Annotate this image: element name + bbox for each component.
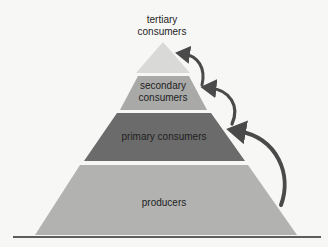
label-producers: producers [142,197,186,209]
pyramid-diagram: tertiary consumers secondary consumers p… [0,0,328,247]
label-line: tertiary [138,14,187,26]
tier-tertiary [136,42,190,73]
label-tertiary-consumers: tertiary consumers [138,14,187,37]
pyramid-graphic [0,0,328,247]
label-line: secondary [139,80,188,92]
label-line: primary consumers [121,131,206,143]
label-primary-consumers: primary consumers [121,131,206,143]
label-line: producers [142,197,186,209]
label-line: consumers [139,92,188,104]
label-line: consumers [138,26,187,38]
label-secondary-consumers: secondary consumers [139,80,188,103]
